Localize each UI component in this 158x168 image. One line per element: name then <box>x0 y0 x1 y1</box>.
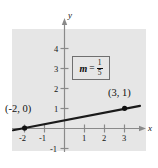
y-tick-label-3: 3 <box>54 65 58 74</box>
data-point-3-1 <box>122 106 127 111</box>
slope-line-graph-figure: y x -2 -1 1 2 3 4 3 2 1 -1 (-2, 0) (3, 1… <box>0 0 158 168</box>
slope-fraction: 1 5 <box>97 59 103 76</box>
point-label-right: (3, 1) <box>108 88 131 99</box>
x-axis-label: x <box>148 124 152 133</box>
x-axis-arrowhead <box>139 126 146 131</box>
y-axis-arrowhead <box>62 18 67 25</box>
point-label-left: (-2, 0) <box>5 104 31 115</box>
slope-variable: m <box>79 63 87 74</box>
slope-denominator: 5 <box>97 69 103 77</box>
x-tick-label--1: -1 <box>39 134 46 143</box>
data-point--2-0 <box>22 126 27 131</box>
y-tick-label--1: -1 <box>50 145 57 154</box>
slope-numerator: 1 <box>97 59 103 67</box>
y-tick-label-1: 1 <box>54 105 58 114</box>
y-tick-label-2: 2 <box>54 85 58 94</box>
y-tick-label-4: 4 <box>54 45 58 54</box>
x-tick-label-2: 2 <box>102 134 106 143</box>
slope-annotation-box: m = 1 5 <box>72 56 110 80</box>
x-tick-label--2: -2 <box>19 134 26 143</box>
slope-equals-sign: = <box>89 63 94 73</box>
y-axis-label: y <box>68 11 72 20</box>
plotted-line <box>13 106 140 130</box>
x-tick-label-3: 3 <box>122 134 126 143</box>
x-tick-label-1: 1 <box>82 134 86 143</box>
